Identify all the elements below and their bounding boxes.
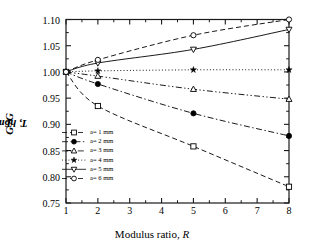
legend-label: a= 6 mm xyxy=(90,175,114,182)
y-tick-label: 1.00 xyxy=(26,66,60,77)
legend-label: a= 5 mm xyxy=(90,166,114,173)
legend-label: a= 3 mm xyxy=(90,147,114,154)
x-tick-label: 4 xyxy=(154,205,170,216)
y-tick-label: 0.90 xyxy=(26,119,60,130)
x-tick-label: 3 xyxy=(122,205,138,216)
x-tick-label: 8 xyxy=(281,205,297,216)
y-tick-label: 0.95 xyxy=(26,93,60,104)
x-tick-label: 1 xyxy=(58,205,74,216)
legend: a= 1 mma= 2 mma= 3 mma= 4 mma= 5 mma= 6 … xyxy=(62,128,132,186)
y-tick-label: 1.05 xyxy=(26,40,60,51)
curve xyxy=(66,29,289,71)
legend-label: a= 2 mm xyxy=(90,138,114,145)
legend-label: a= 4 mm xyxy=(90,157,114,164)
x-tick-label: 7 xyxy=(249,205,265,216)
y-tick-label: 1.10 xyxy=(26,14,60,25)
y-tick-label: 0.85 xyxy=(26,145,60,156)
x-tick-label: 6 xyxy=(217,205,233,216)
x-tick-label: 5 xyxy=(185,205,201,216)
x-tick-label: 2 xyxy=(90,205,106,216)
y-tick-label: 0.75 xyxy=(26,198,60,209)
legend-label: a= 1 mm xyxy=(90,129,114,136)
y-tick-label: 0.80 xyxy=(26,171,60,182)
